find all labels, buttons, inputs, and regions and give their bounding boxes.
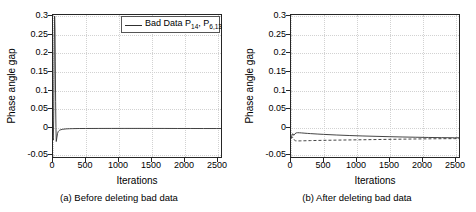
legend-label-bad-data: Bad Data P14, P6,13 — [145, 19, 222, 30]
panel-caption-a: (a) Before deleting bad data — [0, 192, 238, 203]
curves-b — [291, 15, 459, 157]
y-tick-label-a-7: -0.05 — [0, 150, 48, 159]
y-tick-label-a-2: 0.2 — [0, 48, 48, 57]
y-tick-label-b-7: -0.05 — [238, 150, 286, 159]
y-tick-label-b-6: 0 — [238, 123, 286, 132]
x-tick-label-a-5: 2500 — [197, 161, 237, 170]
x-tick-label-b-5: 2500 — [435, 161, 475, 170]
y-tick-label-b-2: 0.2 — [238, 48, 286, 57]
panel-caption-b: (b) After deleting bad data — [238, 192, 476, 203]
y-tick-label-b-1: 0.25 — [238, 30, 286, 39]
legend-a: Bad Data P14, P6,13 — [121, 16, 220, 33]
y-tick-label-b-0: 0.3 — [238, 11, 286, 20]
y-tick-label-a-4: 0.1 — [0, 86, 48, 95]
legend-line-sample-solid-icon — [125, 21, 142, 29]
y-tick-label-b-4: 0.1 — [238, 86, 286, 95]
y-tick-label-a-1: 0.25 — [0, 30, 48, 39]
curves-a — [53, 15, 221, 157]
y-tick-label-a-0: 0.3 — [0, 11, 48, 20]
plot-area-a — [52, 14, 222, 158]
y-tick-label-a-5: 0.05 — [0, 104, 48, 113]
x-axis-label-a: Iterations — [52, 175, 222, 186]
plot-area-b — [290, 14, 460, 158]
y-tick-label-a-3: 0.15 — [0, 67, 48, 76]
legend-entry-bad-data: Bad Data P14, P6,13 — [125, 19, 215, 30]
panel-before-deleting: Phase angle gap 0.3 0.25 0.2 0.15 0.1 0.… — [0, 0, 238, 212]
y-tick-label-b-5: 0.05 — [238, 104, 286, 113]
panel-after-deleting: Phase angle gap 0.3 0.25 0.2 0.15 0.1 0.… — [238, 0, 476, 212]
x-axis-label-b: Iterations — [290, 175, 460, 186]
series-line-bad-data — [53, 16, 221, 141]
y-tick-label-a-6: 0 — [0, 123, 48, 132]
series-line-delete-p14-p613 — [291, 133, 459, 139]
figure-container: Phase angle gap 0.3 0.25 0.2 0.15 0.1 0.… — [0, 0, 476, 212]
y-tick-label-b-3: 0.15 — [238, 67, 286, 76]
